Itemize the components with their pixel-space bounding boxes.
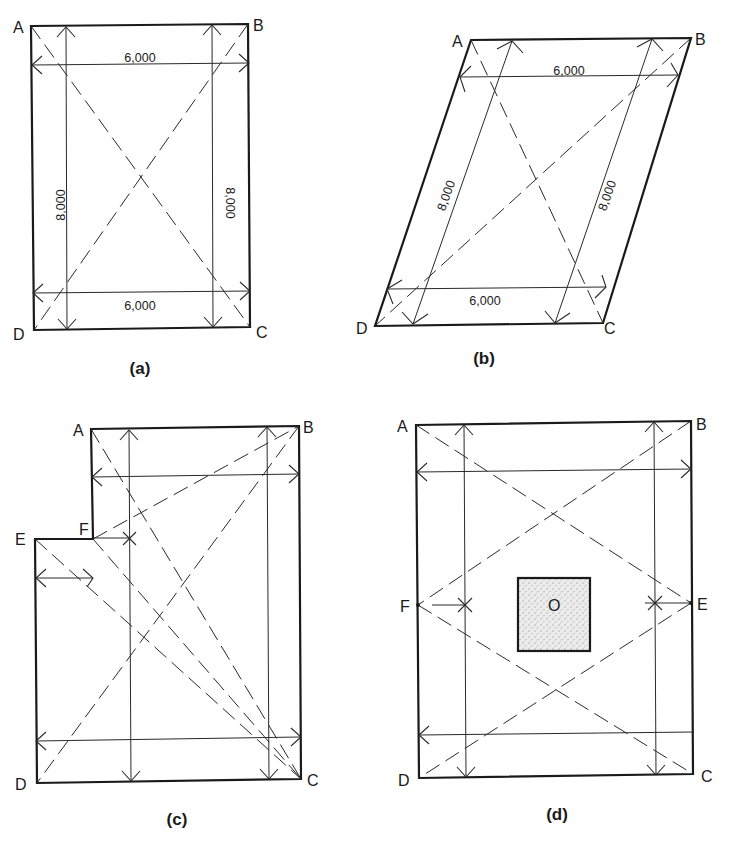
diagram-canvas: 6,000 6,000 8,000 8,000 A B C D (a) 6,00…: [0, 0, 733, 854]
vertex-label-a: A: [397, 418, 408, 435]
figure-a: 6,000 6,000 8,000 8,000 A B C D (a): [13, 17, 268, 378]
vertex-label-c: C: [307, 772, 319, 789]
vertex-label-b: B: [303, 419, 314, 436]
vertex-label-b: B: [696, 416, 707, 433]
figure-caption-a: (a): [130, 359, 151, 378]
vertex-label-f: F: [400, 598, 410, 615]
dimension-right-height: 8,000: [223, 187, 237, 218]
vertex-label-d: D: [398, 772, 410, 789]
dimension-line-bottom: [36, 737, 301, 741]
dimension-line-bottom: [419, 732, 694, 735]
figure-caption-c: (c): [167, 810, 188, 829]
dimension-left-height: 8,000: [434, 178, 458, 212]
figure-caption-d: (d): [546, 805, 568, 824]
vertex-label-f: F: [79, 521, 89, 538]
dimension-bottom-width: 6,000: [124, 299, 155, 313]
dimension-top-width: 6,000: [124, 51, 155, 65]
dimension-line-top: [417, 469, 691, 472]
diagonal-ac: [91, 429, 301, 779]
point-f: [416, 603, 420, 607]
arrow-heads: [387, 39, 678, 324]
center-label-o: O: [548, 597, 560, 614]
dimension-left-height: 8,000: [54, 189, 68, 220]
figure-c: A B C D E F (c): [15, 419, 319, 829]
dimension-line-left: [129, 430, 131, 781]
figure-caption-b: (b): [473, 349, 495, 368]
dimension-line-bottom: [33, 291, 250, 293]
dimension-line-left: [464, 425, 466, 777]
diagonal-fc: [93, 539, 301, 779]
vertex-label-e: E: [697, 596, 708, 613]
vertex-label-d: D: [13, 326, 25, 343]
dimension-line-right: [267, 427, 269, 779]
vertex-label-c: C: [701, 768, 713, 785]
dimension-line-right: [212, 25, 213, 327]
diagonal-ac: [31, 26, 250, 327]
vertex-label-b: B: [253, 17, 264, 34]
diagonal-bd: [37, 426, 299, 783]
center-column-o: [518, 578, 590, 651]
dimension-line-right: [654, 422, 656, 775]
vertex-label-b: B: [695, 31, 706, 48]
figure-d: O A B C D E F (d): [397, 416, 713, 824]
vertex-label-c: C: [256, 324, 268, 341]
vertex-label-d: D: [15, 776, 27, 793]
dimension-line-left: [66, 27, 67, 329]
vertex-label-c: C: [604, 320, 616, 337]
vertex-label-a: A: [73, 422, 84, 439]
diagonal-fb: [93, 426, 299, 539]
diagonal-ac: [471, 40, 603, 323]
point-e: [689, 601, 693, 605]
vertex-label-e: E: [15, 531, 26, 548]
dimension-top-width: 6,000: [553, 64, 584, 78]
dimension-line-bottom: [387, 287, 606, 289]
dimension-right-height: 8,000: [595, 178, 619, 212]
dimension-line-top: [92, 474, 299, 477]
vertex-label-a: A: [452, 33, 463, 50]
vertex-label-a: A: [13, 19, 24, 36]
figure-b: 6,000 6,000 8,000 8,000 A B C D (b): [356, 31, 706, 368]
dimension-bottom-width: 6,000: [469, 294, 500, 308]
vertex-label-d: D: [356, 320, 368, 337]
diagonal-ec: [35, 539, 301, 779]
